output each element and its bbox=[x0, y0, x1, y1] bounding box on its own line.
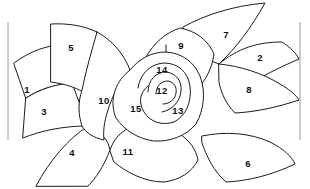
region-label-11: 11 bbox=[123, 146, 134, 157]
region-label-7: 7 bbox=[223, 29, 229, 40]
region-label-6: 6 bbox=[245, 158, 251, 169]
region-label-14: 14 bbox=[156, 64, 168, 75]
region-label-15: 15 bbox=[130, 103, 142, 114]
region-label-10: 10 bbox=[98, 95, 109, 106]
region-label-3: 3 bbox=[41, 106, 47, 117]
region-label-9: 9 bbox=[178, 40, 184, 51]
figure-root: 1 2 3 4 5 6 7 8 9 10 11 12 13 14 15 bbox=[0, 0, 310, 189]
region-label-5: 5 bbox=[68, 42, 74, 53]
region-label-2: 2 bbox=[257, 52, 263, 63]
rose-line-drawing: 1 2 3 4 5 6 7 8 9 10 11 12 13 14 15 bbox=[0, 0, 310, 189]
region-label-12: 12 bbox=[156, 85, 167, 96]
region-label-8: 8 bbox=[246, 84, 252, 95]
region-label-4: 4 bbox=[69, 147, 75, 158]
region-label-1: 1 bbox=[24, 84, 30, 95]
region-label-13: 13 bbox=[172, 105, 183, 116]
